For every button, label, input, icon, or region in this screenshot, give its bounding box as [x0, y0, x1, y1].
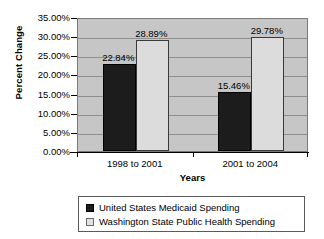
- bar: [218, 92, 251, 151]
- y-axis-tick-label: 15.00%: [14, 90, 70, 100]
- x-axis-tick-mark: [307, 152, 308, 157]
- x-axis-line: [70, 152, 309, 153]
- bar-value-label: 15.46%: [214, 80, 254, 91]
- y-axis-tick-label: 0.00%: [14, 147, 70, 157]
- bar-value-label: 29.78%: [247, 25, 287, 36]
- y-axis-tick-label: 10.00%: [14, 109, 70, 119]
- legend-item: Washington State Public Health Spending: [86, 215, 304, 228]
- legend-swatch-icon: [86, 204, 94, 212]
- plot-area: [77, 18, 308, 152]
- bar: [251, 37, 284, 151]
- bar-chart: Percent Change 0.00%5.00%10.00%15.00%20.…: [0, 0, 324, 239]
- legend-item: United States Medicaid Spending: [86, 201, 304, 214]
- y-axis-tick-label: 20.00%: [14, 70, 70, 80]
- bar-value-label: 28.89%: [131, 28, 171, 39]
- x-axis-title: Years: [77, 172, 308, 183]
- legend-item-label: United States Medicaid Spending: [99, 202, 239, 213]
- bar: [103, 64, 136, 151]
- bar: [136, 40, 169, 151]
- chart-legend: United States Medicaid Spending Washingt…: [78, 196, 305, 232]
- y-axis-tick-label: 30.00%: [14, 32, 70, 42]
- y-axis-tick-label: 35.00%: [14, 13, 70, 23]
- y-axis-tick-labels: 0.00%5.00%10.00%15.00%20.00%25.00%30.00%…: [14, 0, 70, 239]
- x-axis-tick-mark: [77, 152, 78, 157]
- x-axis-tick-mark: [193, 152, 194, 157]
- legend-item-label: Washington State Public Health Spending: [99, 216, 275, 227]
- legend-swatch-icon: [86, 218, 94, 226]
- y-axis-tick-label: 25.00%: [14, 51, 70, 61]
- x-axis-category-label: 1998 to 2001: [90, 158, 180, 169]
- x-axis-category-label: 2001 to 2004: [205, 158, 295, 169]
- bar-value-label: 22.84%: [98, 52, 138, 63]
- y-axis-tick-label: 5.00%: [14, 128, 70, 138]
